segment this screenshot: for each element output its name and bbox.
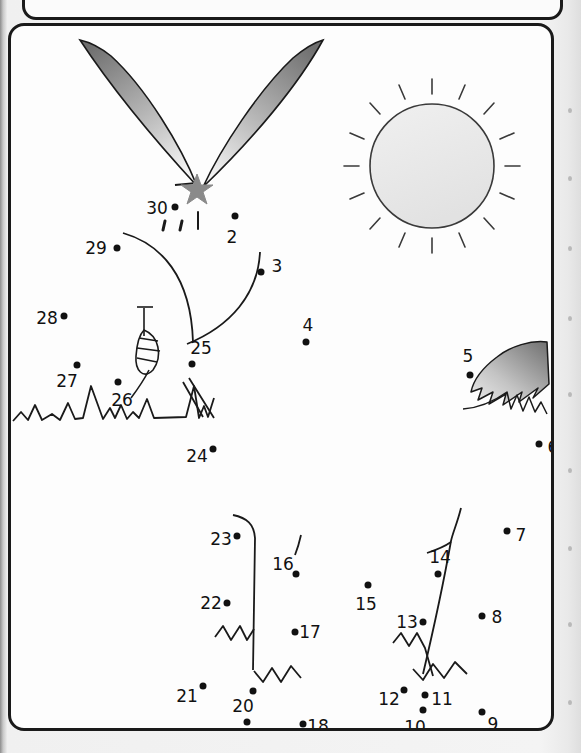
dot-label-30: 30	[146, 200, 168, 217]
dot-label-5: 5	[463, 348, 474, 365]
dot-label-17: 17	[299, 624, 321, 641]
dot-25[interactable]	[189, 361, 196, 368]
dot-label-15: 15	[355, 596, 377, 613]
dot-3[interactable]	[258, 269, 265, 276]
dot-13[interactable]	[420, 619, 427, 626]
dot-label-6: 6	[548, 439, 554, 456]
dot-27[interactable]	[74, 362, 81, 369]
dot-label-8: 8	[492, 609, 503, 626]
dot-label-22: 22	[200, 595, 222, 612]
dot-8[interactable]	[479, 613, 486, 620]
dot-label-4: 4	[303, 317, 314, 334]
dot-24[interactable]	[210, 446, 217, 453]
dot-label-18: 18	[307, 718, 329, 732]
dot-label-13: 13	[396, 614, 418, 631]
dot-label-14: 14	[429, 549, 451, 566]
dot-label-3: 3	[272, 258, 283, 275]
dot-label-27: 27	[56, 373, 78, 390]
dot-30[interactable]	[172, 204, 179, 211]
dot-label-25: 25	[190, 340, 212, 357]
dot-label-19: 19	[224, 728, 246, 732]
dot-26[interactable]	[115, 379, 122, 386]
dot-19[interactable]	[244, 719, 251, 726]
dot-label-28: 28	[36, 310, 58, 327]
binding-shadow	[0, 0, 7, 753]
dot-28[interactable]	[61, 313, 68, 320]
dot-22[interactable]	[224, 600, 231, 607]
dot-5[interactable]	[467, 372, 474, 379]
dot-label-9: 9	[488, 716, 499, 732]
dot-label-11: 11	[431, 691, 453, 708]
dot-label-20: 20	[232, 698, 254, 715]
dot-11[interactable]	[422, 692, 429, 699]
dot-14[interactable]	[435, 571, 442, 578]
dot-21[interactable]	[200, 683, 207, 690]
dot-23[interactable]	[234, 533, 241, 540]
dot-layer: 2345678910111213141516171819202122232425…	[11, 26, 551, 728]
dot-4[interactable]	[303, 339, 310, 346]
puzzle-panel: 2345678910111213141516171819202122232425…	[8, 23, 554, 731]
dot-label-7: 7	[516, 527, 527, 544]
dot-label-29: 29	[85, 240, 107, 257]
dot-label-26: 26	[111, 392, 133, 409]
dot-18[interactable]	[300, 721, 307, 728]
dot-17[interactable]	[292, 629, 299, 636]
dot-9[interactable]	[479, 709, 486, 716]
dot-2[interactable]	[232, 213, 239, 220]
dot-label-2: 2	[227, 229, 238, 246]
dot-label-10: 10	[404, 719, 426, 732]
dot-label-24: 24	[186, 448, 208, 465]
dot-20[interactable]	[250, 688, 257, 695]
dot-29[interactable]	[114, 245, 121, 252]
dot-12[interactable]	[401, 687, 408, 694]
top-title-panel	[22, 0, 563, 20]
dot-label-12: 12	[378, 691, 400, 708]
dot-label-23: 23	[210, 531, 232, 548]
dot-7[interactable]	[504, 528, 511, 535]
dot-15[interactable]	[365, 582, 372, 589]
dot-6[interactable]	[536, 441, 543, 448]
margin-speckles	[557, 0, 579, 753]
dot-label-21: 21	[176, 688, 198, 705]
dot-label-16: 16	[272, 556, 294, 573]
dot-10[interactable]	[420, 707, 427, 714]
